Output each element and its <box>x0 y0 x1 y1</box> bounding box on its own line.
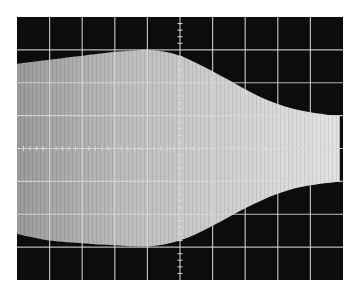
oscilloscope-display <box>0 0 359 298</box>
